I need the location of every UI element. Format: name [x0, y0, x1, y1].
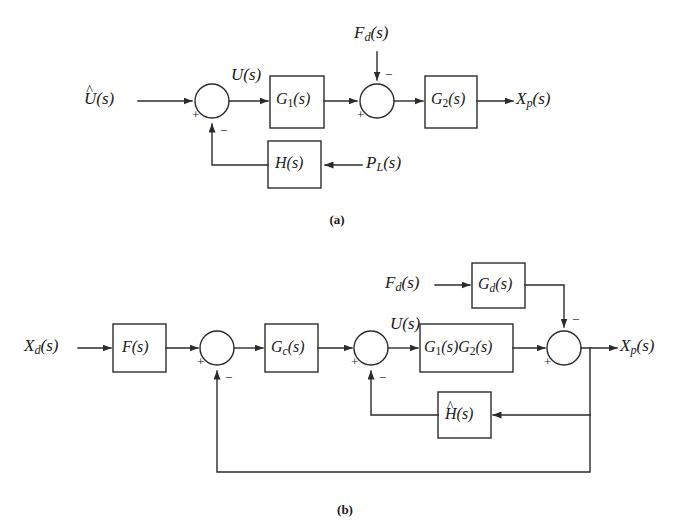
- b-gd-to-sum3-path: [525, 285, 564, 327]
- b-hhat-block-label: ^H(s): [445, 406, 473, 422]
- figure-container: ^U(s) U(s) Fd(s) G1(s) G2(s) H(s) Xp(s) …: [0, 0, 688, 527]
- a-signal-u-label: U(s): [231, 66, 261, 83]
- b-output-label: Xp(s): [620, 337, 654, 357]
- a-disturbance-label: Fd(s): [354, 24, 388, 44]
- a-sum-2-circle: [360, 84, 394, 118]
- caption-a: (a): [307, 213, 367, 226]
- a-secondary-input-label: PL(s): [366, 154, 401, 174]
- a-sum2-minus-sign: −: [385, 68, 392, 81]
- b-signal-u-label: U(s): [390, 315, 420, 332]
- b-sum-3-circle: [547, 331, 581, 365]
- b-sum2-minus-sign: −: [379, 371, 386, 384]
- a-sum-1-circle: [195, 84, 229, 118]
- b-sum3-plus-sign: +: [544, 355, 551, 368]
- a-output-label: Xp(s): [516, 90, 550, 110]
- a-sum1-plus-sign: +: [192, 108, 199, 121]
- a-h-block-label: H(s): [275, 155, 303, 171]
- b-input-label: Xd(s): [24, 337, 58, 357]
- b-sum1-plus-sign: +: [197, 355, 204, 368]
- a-sum2-plus-sign: +: [357, 108, 364, 121]
- b-f-block-label: F(s): [122, 339, 149, 355]
- b-gd-block-label: Gd(s): [478, 276, 512, 295]
- b-sum-1-circle: [200, 331, 234, 365]
- b-gc-block-label: Gc(s): [271, 339, 305, 358]
- b-sum3-minus-sign: −: [572, 313, 579, 326]
- a-input-label: ^U(s): [84, 90, 114, 107]
- block-diagram-svg: [0, 0, 688, 527]
- a-sum1-minus-sign: −: [220, 124, 227, 137]
- b-sum1-minus-sign: −: [225, 371, 232, 384]
- a-input-hat-icon: ^: [86, 83, 93, 97]
- a-g1-block-label: G1(s): [276, 91, 310, 110]
- b-plant-block-label: G1(s)G2(s): [424, 339, 492, 358]
- b-outer-feedback-path: [217, 371, 590, 472]
- b-hhat-hat-icon: ^: [447, 400, 453, 414]
- a-g2-block-label: G2(s): [431, 91, 465, 110]
- b-sum-2-circle: [354, 331, 388, 365]
- b-disturbance-label: Fd(s): [385, 274, 419, 294]
- caption-b: (b): [315, 503, 375, 516]
- b-sum2-plus-sign: +: [351, 355, 358, 368]
